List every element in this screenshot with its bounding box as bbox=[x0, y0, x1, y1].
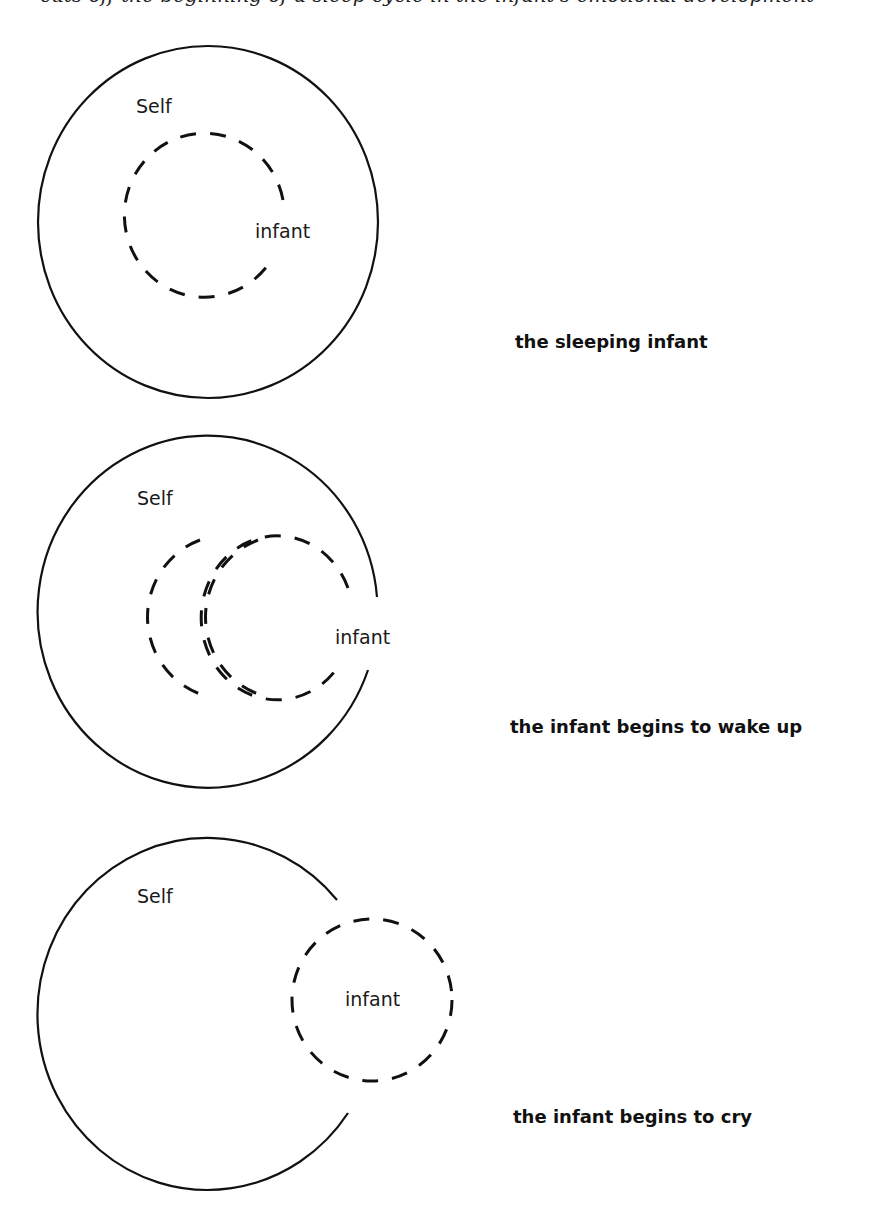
self-circle bbox=[38, 46, 378, 398]
self-arc bbox=[37, 838, 348, 1190]
infant-label: infant bbox=[255, 220, 310, 242]
diagram-waking: Self infant bbox=[38, 436, 391, 788]
figure-canvas: cuts off the beginning of a sleep cycle … bbox=[0, 0, 879, 1218]
caption-sleeping: the sleeping infant bbox=[515, 331, 708, 352]
infant-arc-1 bbox=[148, 540, 200, 694]
self-label: Self bbox=[137, 487, 174, 509]
infant-arc-2 bbox=[206, 540, 258, 694]
diagram-crying: Self infant bbox=[37, 838, 452, 1190]
infant-arc-3 bbox=[201, 536, 348, 700]
infant-label: infant bbox=[345, 988, 400, 1010]
infant-label: infant bbox=[335, 626, 390, 648]
self-circle bbox=[38, 436, 377, 788]
caption-waking: the infant begins to wake up bbox=[510, 716, 802, 737]
self-label: Self bbox=[137, 885, 174, 907]
self-label: Self bbox=[136, 95, 173, 117]
infant-dashed-circle bbox=[124, 133, 283, 297]
caption-crying: the infant begins to cry bbox=[513, 1106, 752, 1127]
diagram-sleeping: Self infant bbox=[38, 46, 378, 398]
cut-off-text-line: cuts off the beginning of a sleep cycle … bbox=[40, 0, 815, 7]
